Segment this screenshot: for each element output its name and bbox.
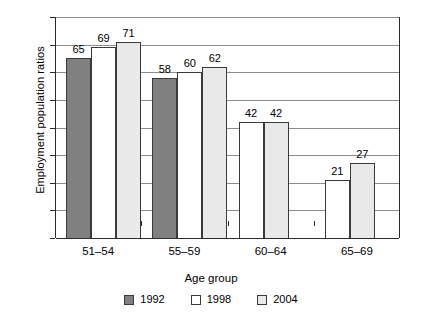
bar [91,47,116,238]
bar-value-label: 62 [209,53,221,64]
legend-swatch-icon [124,295,134,305]
x-axis-title: Age group [0,272,422,284]
bar-value-label: 27 [356,149,368,160]
bar-value-label: 71 [122,28,134,39]
legend-item: 1998 [191,294,231,305]
legend-swatch-icon [191,295,201,305]
y-tick-mark [50,155,55,156]
bar [202,67,227,238]
bar-value-label: 60 [184,58,196,69]
bar [264,122,289,238]
y-tick-mark [50,72,55,73]
y-tick-mark [50,17,55,18]
y-tick-mark [50,100,55,101]
x-tick-mark [141,221,142,226]
bar [116,42,141,238]
x-axis-baseline [56,238,399,239]
plot-area: 65697158606242422127 [55,17,400,238]
x-tick-mark [314,221,315,226]
x-tick-label: 55–59 [144,245,224,257]
legend-item: 2004 [257,294,297,305]
legend-label: 2004 [273,294,297,305]
x-tick-label: 51–54 [58,245,138,257]
bar-value-label: 69 [97,33,109,44]
bar [350,163,375,238]
bar-value-label: 42 [245,108,257,119]
bar [66,58,91,238]
bar [177,72,202,238]
y-tick-mark [50,210,55,211]
bar [325,180,350,238]
bar [239,122,264,238]
y-tick-mark [50,128,55,129]
chart-legend: 199219982004 [0,294,422,305]
bar-chart-figure: Employment population ratios 65697158606… [0,0,422,321]
y-tick-mark [50,183,55,184]
legend-label: 1998 [207,294,231,305]
bar [152,78,177,238]
x-tick-mark [228,221,229,226]
legend-swatch-icon [257,295,267,305]
bars-group: 65697158606242422127 [56,17,399,238]
legend-item: 1992 [124,294,164,305]
bar-value-label: 58 [159,64,171,75]
x-tick-label: 65–69 [317,245,397,257]
legend-label: 1992 [140,294,164,305]
y-tick-mark [50,238,55,239]
y-tick-mark [50,45,55,46]
bar-value-label: 21 [331,166,343,177]
bar-value-label: 42 [270,108,282,119]
x-tick-label: 60–64 [231,245,311,257]
bar-value-label: 65 [72,44,84,55]
y-axis-title: Employment population ratios [34,5,46,235]
